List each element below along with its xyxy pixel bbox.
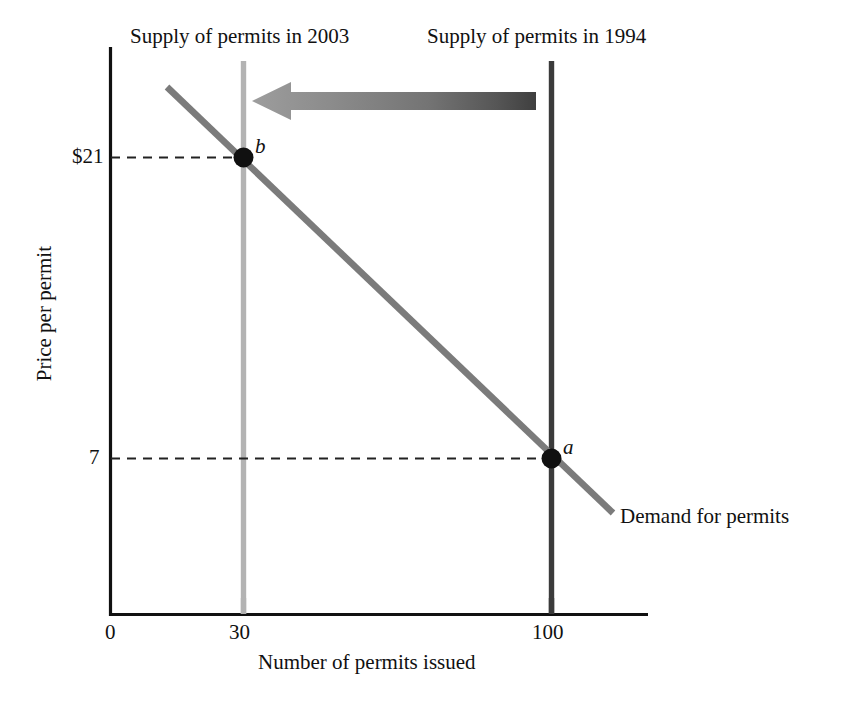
supply-2003-label: Supply of permits in 2003 [130, 26, 349, 47]
y-tick-label-21: $21 [72, 146, 104, 167]
y-tick-label-7: 7 [89, 447, 100, 468]
x-tick-label-30: 30 [229, 622, 250, 643]
shift-arrow [252, 82, 536, 120]
x-tick-label-100: 100 [532, 622, 564, 643]
chart-canvas [0, 0, 850, 705]
demand-curve-line [167, 87, 613, 513]
demand-curve-label: Demand for permits [620, 506, 789, 527]
supply-demand-chart: Supply of permits in 2003 Supply of perm… [0, 0, 850, 705]
x-axis-title: Number of permits issued [258, 652, 476, 673]
point-b-marker [234, 148, 254, 168]
supply-1994-label: Supply of permits in 1994 [427, 26, 646, 47]
y-axis-title: Price per permit [34, 246, 55, 381]
point-b-label: b [255, 136, 266, 157]
x-tick-label-0: 0 [105, 622, 116, 643]
point-a-marker [542, 449, 562, 469]
point-a-label: a [563, 437, 574, 458]
